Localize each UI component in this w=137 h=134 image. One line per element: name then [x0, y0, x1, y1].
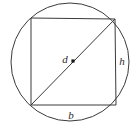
label-height-h: h — [119, 55, 125, 67]
label-diagonal-d: d — [62, 53, 68, 65]
label-base-b: b — [68, 109, 74, 121]
geometry-figure: d h b — [0, 0, 137, 134]
circumscribed-circle — [11, 3, 129, 121]
center-point-dot — [71, 59, 74, 62]
geometry-diagram-canvas: d h b — [0, 0, 137, 134]
